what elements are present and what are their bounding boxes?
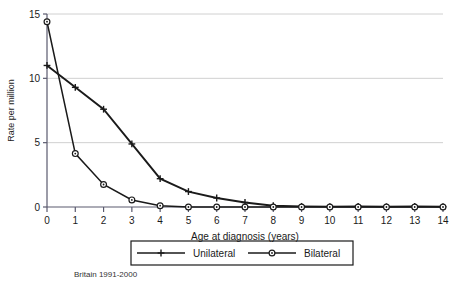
legend-item-bilateral[interactable]: Bilateral	[248, 248, 340, 259]
x-tick-label-2: 2	[101, 215, 107, 226]
data-point	[412, 204, 418, 210]
x-tick-label-8: 8	[271, 215, 277, 226]
data-point	[185, 188, 192, 195]
x-tick-label-7: 7	[242, 215, 248, 226]
data-point	[270, 204, 276, 210]
y-tick-label-0: 0	[34, 202, 40, 213]
x-tick-label-10: 10	[324, 215, 336, 226]
data-point	[186, 204, 192, 210]
data-point	[440, 204, 446, 210]
series-markers-bilateral	[44, 19, 446, 210]
x-tick-label-0: 0	[44, 215, 50, 226]
x-tick-label-11: 11	[353, 215, 364, 226]
legend-item-unilateral[interactable]: Unilateral	[137, 248, 235, 259]
series-line-bilateral	[47, 22, 443, 207]
data-point	[129, 197, 135, 203]
y-tick-label-5: 5	[34, 137, 40, 148]
legend-label: Bilateral	[304, 248, 340, 259]
data-point	[214, 204, 220, 210]
y-axis-title: Rate per million	[6, 79, 16, 142]
x-tick-label-4: 4	[157, 215, 163, 226]
x-tick-label-3: 3	[129, 215, 135, 226]
data-point	[299, 204, 305, 210]
y-tick-label-10: 10	[29, 73, 41, 84]
x-tick-label-1: 1	[73, 215, 79, 226]
y-tick-label-15: 15	[29, 9, 41, 20]
data-point	[213, 195, 220, 202]
data-point	[44, 19, 50, 25]
x-axis-title: Age at diagnosis (years)	[191, 231, 299, 242]
legend-label: Unilateral	[193, 248, 235, 259]
line-chart: 05101501234567891011121314Age at diagnos…	[0, 0, 457, 285]
x-tick-label-6: 6	[214, 215, 220, 226]
data-point	[355, 204, 361, 210]
x-tick-label-12: 12	[381, 215, 393, 226]
data-point	[327, 204, 333, 210]
data-point	[157, 203, 163, 209]
x-tick-label-14: 14	[437, 215, 449, 226]
x-tick-label-13: 13	[409, 215, 421, 226]
data-point	[72, 151, 78, 157]
data-point	[384, 204, 390, 210]
data-point	[101, 182, 107, 188]
x-tick-label-9: 9	[299, 215, 305, 226]
source-note: Britain 1991-2000	[74, 270, 138, 279]
x-tick-label-5: 5	[186, 215, 192, 226]
data-point	[242, 204, 248, 210]
chart-container: 05101501234567891011121314Age at diagnos…	[0, 0, 457, 285]
